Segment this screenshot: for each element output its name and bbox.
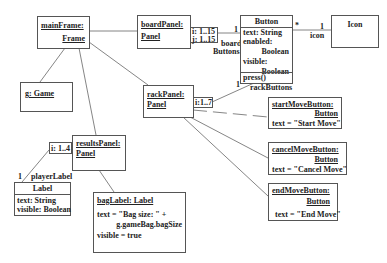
cancelmove-class: Button [314,155,338,164]
endmove-class: Button [306,197,330,206]
rackpanel-object[interactable]: rackPanel: Panel [143,85,194,118]
baglabel-attr-text-cont: g.gameBag.bagSize [116,220,182,229]
qualifier-j: j: 1..15 [192,35,215,44]
startmovebutton-object[interactable]: startMoveButton: Button text = "Start Mo… [268,97,342,129]
button-class-name: Button [241,17,292,26]
label-class[interactable]: Label text: String visible: Boolean [14,182,71,216]
startmove-attr: text = "Start Move" [272,119,341,128]
boardpanel-qualifier: i: 1..15 j: 1..15 [190,27,218,43]
baglabel-attr-text: text = "Bag size: " + [97,210,166,219]
icon-class[interactable]: Icon [331,15,379,48]
rackpanel-class: Panel [147,100,166,109]
button-attr-text: text: String [243,28,282,37]
results-qualifier-i: i: 1..4 [51,144,70,153]
boardpanel-object[interactable]: boardPanel: Panel [137,15,191,49]
resultspanel-qualifier: i: 1..4 [49,142,72,154]
cancelmovebutton-object[interactable]: cancelMoveButton: Button text = "Cancel … [268,142,347,175]
board-role-buttons: Buttons [213,47,240,56]
rack-multiplicity: 1 [236,80,240,89]
button-class[interactable]: Button text: String enabled: Boolean vis… [240,15,293,84]
label-attr-visible: visible: Boolean [17,205,71,214]
button-attr-enabled-type: Boolean [261,47,289,56]
button-attr-visible: visible: [243,57,267,66]
game-name: g: Game [25,89,54,98]
board-multiplicity: 1 [234,25,238,34]
game-object[interactable]: g: Game [20,82,73,112]
mainframe-name: mainFrame: [41,21,84,30]
endmove-attr: text = "End Move" [275,210,341,219]
label-header-divider [15,194,70,195]
baglabel-name: bagLabel: Label [97,196,153,205]
label-attr-text: text: String [17,196,56,205]
boardpanel-name: boardPanel: [141,20,183,29]
cancelmove-attr: text = "Cancel Move" [272,165,347,174]
icon-star-multiplicity: * [295,21,299,30]
icon-class-name: Icon [332,20,378,29]
button-attr-enabled: enabled: [243,37,272,46]
endmove-name: endMoveButton: [272,186,330,195]
icon-multiplicity: 1 [320,22,324,31]
startmove-class: Button [314,109,338,118]
rackpanel-qualifier: i:1..7 [193,97,213,108]
button-op-press: press() [243,73,266,82]
resultspanel-name: resultsPanel: [76,139,120,148]
player-multiplicity: 1 [18,172,22,181]
mainframe-object[interactable]: mainFrame: Frame [37,16,90,49]
baglabel-object[interactable]: bagLabel: Label text = "Bag size: " + g.… [93,192,186,253]
baglabel-attr-visible: visible = true [97,231,142,240]
icon-role: icon [310,31,324,40]
boardpanel-class: Panel [141,32,160,41]
resultspanel-class: Panel [76,149,95,158]
resultspanel-object[interactable]: resultsPanel: Panel [72,135,126,171]
rack-qualifier-i: i:1..7 [195,98,212,107]
player-role: playerLabel [31,172,72,181]
cancelmove-name: cancelMoveButton: [272,145,339,154]
startmove-name: startMoveButton: [272,100,333,109]
label-class-name: Label [15,184,70,193]
mainframe-class: Frame [62,34,85,43]
endmovebutton-object[interactable]: endMoveButton: Button text = "End Move" [268,183,338,221]
rackpanel-name: rackPanel: [147,90,184,99]
rack-role: rackButtons [250,83,292,92]
